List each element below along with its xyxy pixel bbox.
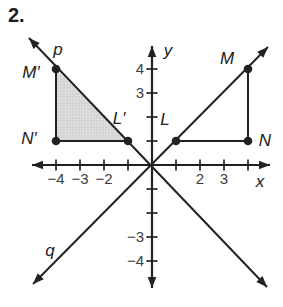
point-L-prime — [124, 137, 133, 146]
x-tick-label: 3 — [220, 170, 228, 187]
point-M-prime — [52, 65, 61, 74]
y-axis-label: y — [163, 41, 174, 60]
point-label-N-prime: N′ — [21, 129, 37, 148]
y-tick-label: −3 — [127, 228, 144, 245]
point-N — [244, 137, 253, 146]
coordinate-plane: −4−3−22343−3−4xypqM′N′L′LNM — [0, 0, 283, 307]
point-label-L-prime: L′ — [113, 109, 126, 128]
point-N-prime — [52, 137, 61, 146]
point-label-N: N — [259, 131, 272, 150]
point-L — [172, 137, 181, 146]
line-p-label: p — [52, 40, 62, 59]
y-axis-up-arrow-icon — [148, 46, 157, 57]
x-tick-label: 2 — [196, 170, 204, 187]
y-tick-label: 4 — [136, 60, 144, 77]
x-tick-label: −4 — [47, 170, 64, 187]
point-M — [244, 65, 253, 74]
x-axis-left-arrow-icon — [32, 161, 43, 170]
y-tick-label: −4 — [127, 252, 144, 269]
y-tick-label: 3 — [136, 84, 144, 101]
point-label-M: M — [220, 49, 235, 68]
x-tick-label: −2 — [95, 170, 112, 187]
line-q-label: q — [45, 241, 55, 260]
line-p — [29, 38, 267, 287]
x-axis-right-arrow-icon — [259, 161, 270, 170]
point-label-L: L — [160, 110, 169, 129]
y-axis-down-arrow-icon — [148, 277, 157, 288]
x-tick-label: −3 — [71, 170, 88, 187]
x-axis-label: x — [255, 172, 265, 191]
point-label-M-prime: M′ — [22, 63, 40, 82]
